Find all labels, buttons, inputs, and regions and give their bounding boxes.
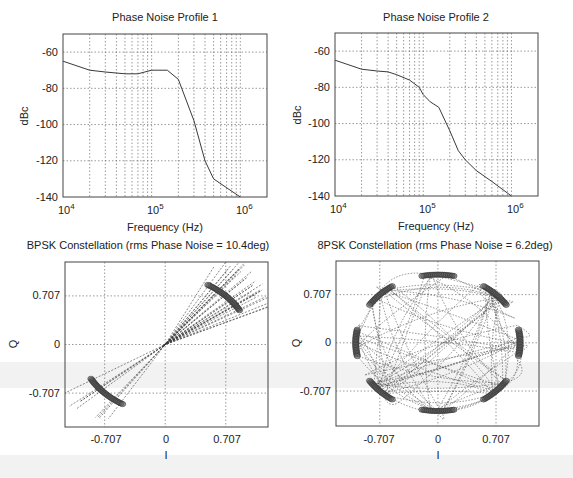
plot-title: Phase Noise Profile 1 bbox=[112, 11, 218, 23]
y-axis-label: Q bbox=[290, 338, 302, 347]
y-tick: -60 bbox=[314, 45, 330, 57]
y-axis-label: dBc bbox=[291, 105, 303, 124]
x-tick: 105 bbox=[147, 202, 164, 216]
trajectories bbox=[59, 257, 278, 419]
trajectories bbox=[353, 272, 530, 419]
y-tick: -80 bbox=[42, 82, 58, 94]
y-tick: -80 bbox=[314, 81, 330, 93]
y-tick: -60 bbox=[42, 46, 58, 58]
y-tick: -140 bbox=[308, 190, 330, 202]
plot-phase-noise-1: Phase Noise Profile 1 -60 -80 -100 -120 … bbox=[18, 11, 267, 233]
y-tick: 0.707 bbox=[303, 288, 331, 300]
x-axis-label: Frequency (Hz) bbox=[127, 221, 203, 233]
y-axis-label: dBc bbox=[18, 106, 30, 125]
y-tick: -120 bbox=[308, 153, 330, 165]
x-tick: 104 bbox=[330, 201, 347, 215]
x-tick: -0.707 bbox=[90, 433, 121, 445]
x-tick: 0 bbox=[435, 433, 441, 445]
grid bbox=[63, 34, 267, 197]
y-tick: 0.707 bbox=[32, 289, 60, 301]
y-tick: -100 bbox=[36, 118, 58, 130]
x-tick: 106 bbox=[507, 201, 524, 215]
x-axis-label: I bbox=[164, 449, 167, 461]
plot-bpsk-constellation: BPSK Constellation (rms Phase Noise = 10… bbox=[7, 239, 278, 461]
figure: Phase Noise Profile 1 -60 -80 -100 -120 … bbox=[0, 0, 573, 478]
y-tick: -120 bbox=[36, 154, 58, 166]
plot-phase-noise-2: Phase Noise Profile 2 -60 -80 -100 -120 … bbox=[291, 11, 538, 232]
y-tick: -0.707 bbox=[300, 385, 331, 397]
grid bbox=[65, 262, 268, 427]
x-tick: -0.707 bbox=[363, 433, 394, 445]
y-tick: 0 bbox=[325, 336, 331, 348]
grid bbox=[335, 33, 538, 196]
y-axis-label: Q bbox=[7, 339, 19, 348]
y-tick: -100 bbox=[308, 117, 330, 129]
x-tick: 105 bbox=[419, 201, 436, 215]
plot-title: 8PSK Constellation (rms Phase Noise = 6.… bbox=[317, 239, 552, 251]
x-tick: 0.707 bbox=[213, 433, 241, 445]
x-tick: 104 bbox=[58, 202, 75, 216]
x-axis-label: Frequency (Hz) bbox=[398, 220, 474, 232]
y-tick: -140 bbox=[36, 191, 58, 203]
x-tick: 0.707 bbox=[482, 433, 510, 445]
plot-title: Phase Noise Profile 2 bbox=[383, 11, 489, 23]
x-axis-label: I bbox=[436, 449, 439, 461]
x-tick: 0 bbox=[163, 433, 169, 445]
y-tick: -0.707 bbox=[29, 387, 60, 399]
plot-title: BPSK Constellation (rms Phase Noise = 10… bbox=[27, 239, 269, 251]
y-tick: 0 bbox=[54, 338, 60, 350]
x-tick: 106 bbox=[236, 202, 253, 216]
plot-8psk-constellation: 8PSK Constellation (rms Phase Noise = 6.… bbox=[290, 239, 553, 461]
